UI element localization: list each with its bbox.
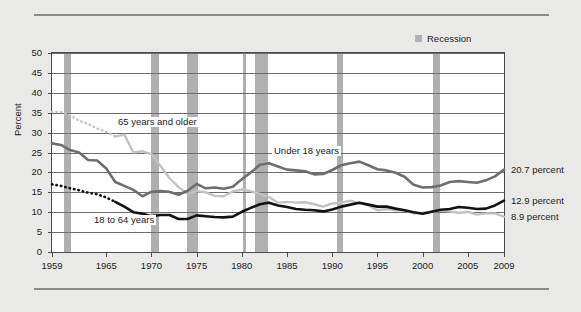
series-label-older: 65 years and older	[116, 117, 199, 127]
y-axis-label: Percent	[12, 103, 23, 136]
series-line-dashed	[52, 112, 115, 137]
series-label-adults: 18 to 64 years	[92, 215, 156, 225]
x-tick-label: 2009	[474, 261, 534, 271]
series-line-dashed	[52, 184, 115, 202]
x-tick-label: 1959	[22, 261, 82, 271]
y-tick-label: 0	[0, 247, 42, 257]
y-tick-label: 25	[0, 148, 42, 158]
y-tick-label: 15	[0, 187, 42, 197]
end-label-under18: 20.7 percent	[511, 165, 564, 175]
recession-swatch-icon	[415, 35, 422, 42]
y-tick-label: 20	[0, 167, 42, 177]
chart-page: Recession Percent 0510152025303540455019…	[0, 0, 581, 312]
y-tick-label: 50	[0, 48, 42, 58]
y-tick-label: 40	[0, 88, 42, 98]
end-label-adults: 12.9 percent	[511, 196, 564, 206]
legend: Recession	[415, 34, 471, 44]
y-tick-label: 10	[0, 207, 42, 217]
bottom-rule	[34, 288, 549, 290]
y-tick-label: 5	[0, 227, 42, 237]
series-label-under18: Under 18 years	[272, 146, 341, 156]
y-tick-label: 45	[0, 68, 42, 78]
end-label-older: 8.9 percent	[511, 212, 559, 222]
top-rule	[34, 14, 549, 16]
legend-label-recession: Recession	[427, 34, 471, 44]
